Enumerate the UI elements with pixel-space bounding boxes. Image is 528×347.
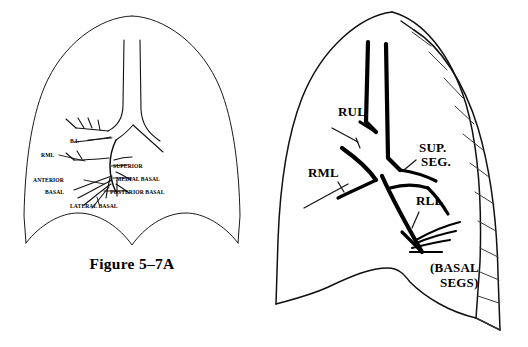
rib-rung <box>478 296 499 303</box>
rml-upper-limb <box>342 148 376 180</box>
label-rll: RLL <box>416 193 443 208</box>
label-basal-segs-line2: SEGS) <box>440 275 479 290</box>
trachea-left-wall <box>366 42 376 132</box>
leader-anterior-basal <box>84 180 104 184</box>
label-basal-segs-line1: (BASAL <box>430 260 479 275</box>
label-lateral-basal: LATERAL BASAL <box>70 203 118 209</box>
leader-sup-seg <box>404 160 416 170</box>
rib-rung <box>480 272 499 280</box>
figure-container: B.I. RML SUPERIOR MEDIAL BASAL ANTERIOR … <box>0 0 528 347</box>
right-lung-diagram: RUL SUP. SEG. RML RLL (BASAL SEGS) <box>264 0 528 347</box>
label-anterior: ANTERIOR <box>33 177 65 183</box>
left-lung-outline <box>24 16 240 245</box>
rml-lower-limb <box>338 180 376 198</box>
label-posterior-basal: POSTERIOR BASAL <box>110 189 165 195</box>
rib-rung <box>480 248 498 257</box>
label-bronchus-intermedius: B.I. <box>70 138 80 144</box>
superior-segment-branch <box>400 170 436 181</box>
left-lung-diagram: B.I. RML SUPERIOR MEDIAL BASAL ANTERIOR … <box>0 0 264 347</box>
leader-rll <box>412 212 419 228</box>
label-rml-left: RML <box>41 152 55 158</box>
rib-rung <box>476 318 500 330</box>
label-rul: RUL <box>338 104 366 119</box>
rll-upper-branch <box>390 185 428 188</box>
left-trachea-and-bronchi <box>66 40 163 208</box>
leader-bi <box>88 138 112 140</box>
label-basal: BASAL <box>45 189 64 195</box>
label-rml-right: RML <box>308 165 339 180</box>
trachea-right-wall <box>386 44 400 170</box>
label-sup: SUP. <box>419 140 446 155</box>
label-superior-segment: SUPERIOR <box>113 163 144 169</box>
leader-rul <box>332 128 358 142</box>
figure-caption: Figure 5–7A <box>0 255 264 273</box>
label-medial-basal: MEDIAL BASAL <box>116 176 160 182</box>
rib-rung <box>470 163 489 177</box>
leader-rul-tick <box>356 138 360 148</box>
label-seg: SEG. <box>421 154 451 169</box>
